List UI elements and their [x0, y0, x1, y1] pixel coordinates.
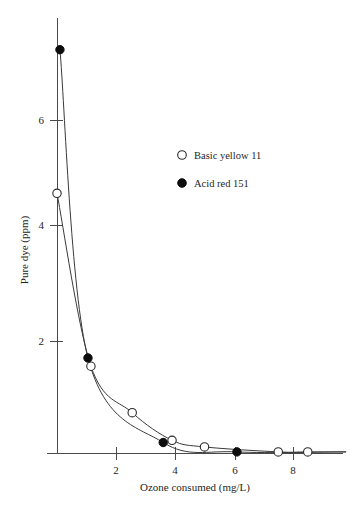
y-tick-label-4: 4	[39, 219, 45, 231]
x-tick-label-4: 4	[172, 464, 178, 476]
y-tick-label-6: 6	[39, 114, 45, 126]
data-point	[274, 448, 282, 456]
data-point	[200, 443, 208, 451]
legend-label-acid-red-151: Acid red 151	[194, 178, 249, 189]
data-point	[159, 438, 167, 446]
data-points-basic-yellow-11	[53, 189, 312, 456]
data-point	[168, 436, 176, 444]
curve-acid-red-151	[60, 50, 346, 453]
x-tick-label-6: 6	[232, 464, 238, 476]
data-point	[128, 408, 136, 416]
chart-legend: Basic yellow 11 Acid red 151	[178, 150, 262, 189]
data-points-acid-red-151	[56, 45, 241, 456]
data-point	[84, 354, 92, 362]
scatter-plot-canvas: 6 4 2 2 4 6 8 Ozone consumed (mg/L) Pure…	[0, 0, 351, 507]
y-tick-label-2: 2	[39, 335, 45, 347]
x-tick-label-2: 2	[113, 464, 119, 476]
filled-circle-marker-icon	[178, 179, 187, 188]
legend-label-basic-yellow-11: Basic yellow 11	[194, 150, 261, 161]
data-point	[56, 45, 64, 53]
curve-basic-yellow-11	[57, 193, 346, 452]
y-axis-title: Pure dye (ppm)	[18, 215, 31, 284]
data-point	[53, 189, 61, 197]
data-point	[304, 448, 312, 456]
open-circle-marker-icon	[178, 151, 187, 160]
data-point	[87, 362, 95, 370]
x-tick-label-8: 8	[290, 464, 296, 476]
data-point	[233, 448, 241, 456]
x-axis-title: Ozone consumed (mg/L)	[140, 481, 250, 494]
chart-figure: 6 4 2 2 4 6 8 Ozone consumed (mg/L) Pure…	[0, 0, 351, 507]
